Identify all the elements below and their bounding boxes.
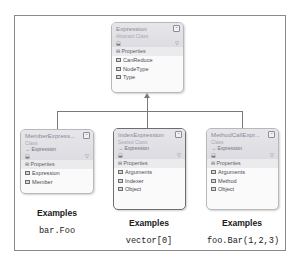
- examples-label: Examples: [104, 218, 194, 228]
- property-item[interactable]: NodeType: [112, 65, 183, 74]
- property-item[interactable]: Object: [207, 185, 278, 194]
- examples-label: Examples: [197, 218, 287, 228]
- class-expression[interactable]: Expression Abstract Class ⬓ ▽ ⌃ ⊟ Proper…: [111, 22, 184, 93]
- property-item[interactable]: Type: [112, 73, 183, 82]
- property-item[interactable]: Arguments: [207, 168, 278, 177]
- collapse-icon[interactable]: ⌃: [173, 25, 180, 32]
- section-toggle-icon[interactable]: ⊟: [211, 160, 215, 166]
- section-toggle-icon[interactable]: ⊟: [116, 48, 120, 54]
- properties-section-header[interactable]: ⊟ Properties: [112, 47, 183, 56]
- filter-icon[interactable]: ▽: [85, 153, 89, 159]
- property-icon: [116, 67, 121, 71]
- class-name: MemberExpress...: [25, 132, 89, 140]
- class-name: IndexExpression: [118, 131, 181, 139]
- property-icon: [25, 180, 30, 184]
- property-item[interactable]: CanReduce: [112, 56, 183, 65]
- class-header: IndexExpression Sealed Class → Expressio…: [114, 129, 185, 159]
- collapse-icon[interactable]: ⌃: [83, 132, 90, 139]
- properties-section-header[interactable]: ⊟ Properties: [207, 159, 278, 168]
- connector-line: [147, 111, 148, 128]
- properties-section-header[interactable]: ⊟ Properties: [21, 160, 93, 169]
- section-toggle-icon[interactable]: ⊟: [118, 160, 122, 166]
- examples-label: Examples: [12, 208, 102, 218]
- connector-line: [57, 111, 243, 112]
- property-icon: [118, 170, 123, 174]
- collapse-icon[interactable]: ⌃: [268, 131, 275, 138]
- property-item[interactable]: Arguments: [114, 168, 185, 177]
- property-item[interactable]: Object: [114, 185, 185, 194]
- property-icon: [211, 179, 216, 183]
- class-method-call-expression[interactable]: MethodCallExpr... Class → Expression ⬓ ▽…: [206, 128, 279, 210]
- class-name: MethodCallExpr...: [211, 131, 274, 139]
- property-icon: [211, 187, 216, 191]
- property-item[interactable]: Method: [207, 177, 278, 186]
- filter-icon[interactable]: ▽: [175, 40, 179, 46]
- properties-section-header[interactable]: ⊟ Properties: [114, 159, 185, 168]
- class-index-expression[interactable]: IndexExpression Sealed Class → Expressio…: [113, 128, 186, 210]
- property-icon: [118, 179, 123, 183]
- class-name: Expression: [116, 25, 179, 33]
- property-item[interactable]: Member: [21, 178, 93, 187]
- filter-icon[interactable]: ▽: [177, 152, 181, 158]
- class-header: MemberExpress... Class → Expression ⬓ ▽ …: [21, 130, 93, 160]
- connector-line: [147, 97, 148, 111]
- property-item[interactable]: Indexer: [114, 177, 185, 186]
- filter-icon[interactable]: ▽: [270, 152, 274, 158]
- example-code: foo.Bar(1,2,3): [193, 236, 293, 246]
- example-code: bar.Foo: [7, 226, 107, 236]
- property-icon: [116, 58, 121, 62]
- collapse-icon[interactable]: ⌃: [175, 131, 182, 138]
- property-icon: [118, 187, 123, 191]
- shape-icon: ⬓: [211, 152, 216, 158]
- property-icon: [25, 171, 30, 175]
- shape-icon: ⬓: [116, 40, 121, 46]
- shape-icon: ⬓: [25, 153, 30, 159]
- property-icon: [211, 170, 216, 174]
- property-icon: [116, 75, 121, 79]
- property-item[interactable]: Expression: [21, 169, 93, 178]
- section-toggle-icon[interactable]: ⊟: [25, 161, 29, 167]
- connector-line: [242, 111, 243, 128]
- class-member-expression[interactable]: MemberExpress... Class → Expression ⬓ ▽ …: [20, 129, 94, 194]
- connector-line: [57, 111, 58, 129]
- example-code: vector[0]: [99, 236, 199, 246]
- shape-icon: ⬓: [118, 152, 123, 158]
- class-header: MethodCallExpr... Class → Expression ⬓ ▽…: [207, 129, 278, 159]
- class-header: Expression Abstract Class ⬓ ▽ ⌃: [112, 23, 183, 47]
